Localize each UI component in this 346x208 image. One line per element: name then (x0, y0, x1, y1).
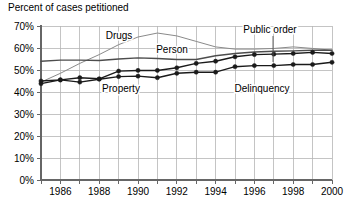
data-point-marker (311, 62, 315, 66)
data-point-marker (175, 66, 179, 70)
data-point-marker (214, 70, 218, 74)
data-point-marker (39, 82, 43, 86)
y-axis-tick-label: 10% (14, 153, 34, 164)
series-annotation-label: Drugs (106, 30, 133, 41)
y-axis-tick-label: 40% (14, 87, 34, 98)
data-point-marker (311, 50, 315, 54)
data-point-marker (194, 61, 198, 65)
data-point-marker (117, 69, 121, 73)
x-axis-tick-label: 1990 (127, 186, 150, 197)
x-axis-tick-label: 1998 (282, 186, 305, 197)
data-point-marker (58, 78, 62, 82)
x-axis-tick-label: 1996 (243, 186, 266, 197)
data-point-marker (272, 52, 276, 56)
y-axis-labels: 0%10%20%30%40%50%60%70% (14, 21, 34, 186)
data-point-marker (155, 76, 159, 80)
y-axis-tick-label: 50% (14, 65, 34, 76)
line-chart-plot: 0%10%20%30%40%50%60%70% 1986198819901992… (0, 0, 346, 208)
x-axis-tick-label: 1986 (49, 186, 72, 197)
x-axis-labels: 19861988199019921994199619982000 (49, 186, 343, 197)
series-line-drugs (41, 33, 332, 82)
data-point-marker (78, 80, 82, 84)
x-axis-tick-label: 1992 (166, 186, 189, 197)
data-point-marker (272, 64, 276, 68)
data-point-marker (252, 64, 256, 68)
series-annotation-label: Property (102, 83, 140, 94)
data-point-marker (291, 51, 295, 55)
series-annotation-label: Delinquency (234, 83, 289, 94)
y-axis-tick-label: 30% (14, 109, 34, 120)
data-point-marker (117, 75, 121, 79)
data-point-marker (78, 76, 82, 80)
chart-container: Percent of cases petitioned 0%10%20%30%4… (0, 0, 346, 208)
data-point-marker (233, 55, 237, 59)
data-point-marker (233, 65, 237, 69)
data-point-marker (214, 59, 218, 63)
data-point-marker (252, 53, 256, 57)
y-axis-tick-label: 20% (14, 131, 34, 142)
data-point-marker (291, 62, 295, 66)
y-axis-tick-label: 70% (14, 21, 34, 32)
data-series (39, 33, 334, 86)
data-point-marker (194, 70, 198, 74)
x-axis-tick-label: 1994 (204, 186, 227, 197)
series-annotation-label: Public order (243, 24, 297, 35)
x-axis-tick-label: 1988 (88, 186, 111, 197)
data-point-marker (136, 74, 140, 78)
series-annotation-label: Person (156, 44, 188, 55)
data-point-marker (97, 77, 101, 81)
y-axis-tick-label: 0% (20, 175, 35, 186)
data-point-marker (155, 68, 159, 72)
data-point-marker (330, 51, 334, 55)
series-line-delinquency (41, 52, 332, 81)
x-axis-tick-label: 2000 (321, 186, 344, 197)
y-axis-tick-label: 60% (14, 43, 34, 54)
data-point-marker (175, 71, 179, 75)
data-point-marker (136, 68, 140, 72)
data-point-marker (330, 60, 334, 64)
